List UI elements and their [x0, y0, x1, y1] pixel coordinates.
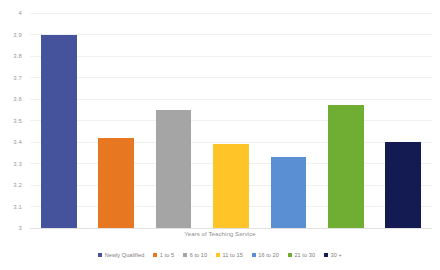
- bar: [328, 105, 364, 228]
- legend-swatch-icon: [324, 253, 328, 257]
- legend-item-label: 21 to 30: [294, 252, 315, 258]
- y-axis-tick-label: 3.1: [13, 204, 22, 210]
- y-axis-tick-label: 3.7: [13, 75, 22, 81]
- y-axis-tick-label: 3.6: [13, 96, 22, 102]
- chart-legend: Newly Qualified1 to 56 to 1011 to 1516 t…: [0, 252, 440, 258]
- y-axis-tick-label: 3.4: [13, 139, 22, 145]
- y-axis-tick-label: 3.3: [13, 161, 22, 167]
- plot-area: [30, 13, 432, 228]
- y-axis-tick-label: 4: [19, 10, 22, 16]
- legend-swatch-icon: [183, 253, 187, 257]
- y-axis-tick-label: 3.8: [13, 53, 22, 59]
- legend-item[interactable]: 30 +: [324, 252, 342, 258]
- legend-item[interactable]: Newly Qualified: [98, 252, 144, 258]
- y-axis-tick-label: 3.9: [13, 32, 22, 38]
- bar: [213, 144, 249, 228]
- legend-item-label: 1 to 5: [160, 252, 174, 258]
- legend-item[interactable]: 21 to 30: [288, 252, 315, 258]
- legend-swatch-icon: [252, 253, 256, 257]
- bar: [271, 157, 307, 228]
- legend-item-label: 6 to 10: [190, 252, 207, 258]
- legend-swatch-icon: [216, 253, 220, 257]
- legend-item-label: 16 to 20: [258, 252, 279, 258]
- legend-swatch-icon: [153, 253, 157, 257]
- bar: [98, 138, 134, 228]
- bar-chart: 43.93.83.73.63.53.43.33.23.13 Years of T…: [0, 0, 440, 270]
- bar: [41, 35, 77, 229]
- bar: [385, 142, 421, 228]
- bars: [30, 13, 432, 228]
- y-axis: 43.93.83.73.63.53.43.33.23.13: [0, 13, 26, 228]
- legend-item[interactable]: 6 to 10: [183, 252, 207, 258]
- legend-swatch-icon: [288, 253, 292, 257]
- legend-item[interactable]: 1 to 5: [153, 252, 174, 258]
- legend-item-label: 30 +: [331, 252, 342, 258]
- legend-item-label: Newly Qualified: [105, 252, 145, 258]
- legend-swatch-icon: [98, 253, 102, 257]
- y-axis-tick-label: 3.5: [13, 118, 22, 124]
- y-axis-tick-label: 3.2: [13, 182, 22, 188]
- legend-item-label: 11 to 15: [223, 252, 243, 258]
- x-axis-title: Years of Teaching Service: [0, 231, 440, 237]
- legend-item[interactable]: 11 to 15: [216, 252, 243, 258]
- bar: [156, 110, 192, 228]
- legend-item[interactable]: 16 to 20: [252, 252, 279, 258]
